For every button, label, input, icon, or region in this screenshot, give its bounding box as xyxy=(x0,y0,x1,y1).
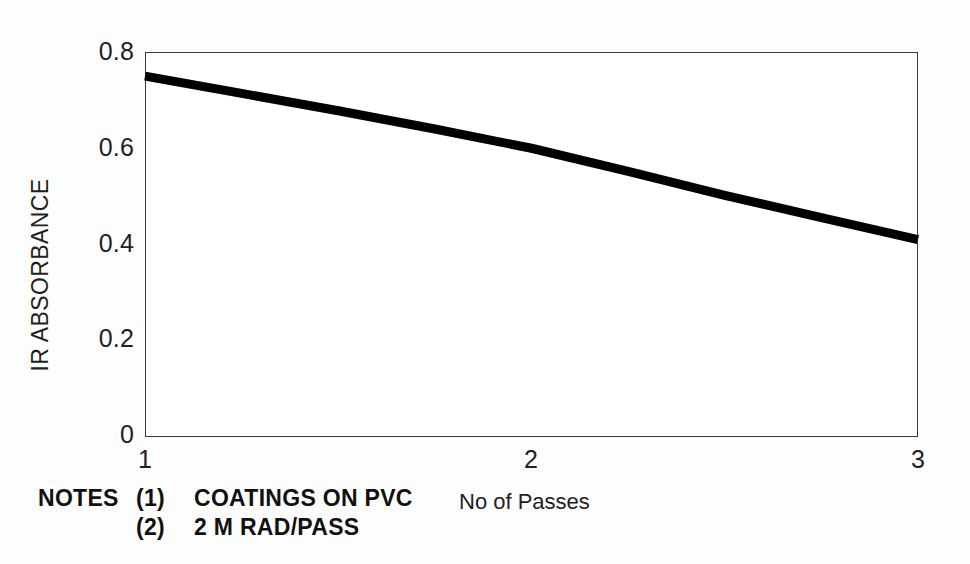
notes-row-1: NOTES (1) COATINGS ON PVC xyxy=(38,484,413,513)
data-curve-layer xyxy=(145,52,918,437)
x-tick-label-3: 3 xyxy=(888,445,948,473)
notes-text-1: COATINGS ON PVC xyxy=(194,484,413,513)
notes-marker-1: (1) xyxy=(136,484,194,513)
notes-block: NOTES (1) COATINGS ON PVC (2) 2 M RAD/PA… xyxy=(38,484,413,542)
notes-text-2: 2 M RAD/PASS xyxy=(194,513,359,542)
y-tick-label-0.8: 0.8 xyxy=(74,39,134,64)
y-axis-title: IR ABSORBANCE xyxy=(27,178,54,371)
y-axis-tick-labels: 0.8 0.6 0.4 0.2 0 xyxy=(74,0,134,564)
notes-row-2: (2) 2 M RAD/PASS xyxy=(38,513,413,542)
x-axis-title: No of Passes xyxy=(459,489,590,515)
y-tick-label-0.6: 0.6 xyxy=(74,135,134,160)
x-tick-label-2: 2 xyxy=(501,445,561,473)
chart-figure: IR ABSORBANCE 0.8 0.6 0.4 0.2 0 1 2 3 No… xyxy=(0,0,970,564)
y-tick-label-0.2: 0.2 xyxy=(74,326,134,351)
notes-marker-2: (2) xyxy=(136,513,194,542)
x-tick-label-1: 1 xyxy=(115,445,175,473)
y-tick-label-0: 0 xyxy=(74,422,134,447)
data-series-line xyxy=(145,76,918,240)
y-tick-label-0.4: 0.4 xyxy=(74,231,134,256)
notes-heading: NOTES xyxy=(38,484,136,513)
